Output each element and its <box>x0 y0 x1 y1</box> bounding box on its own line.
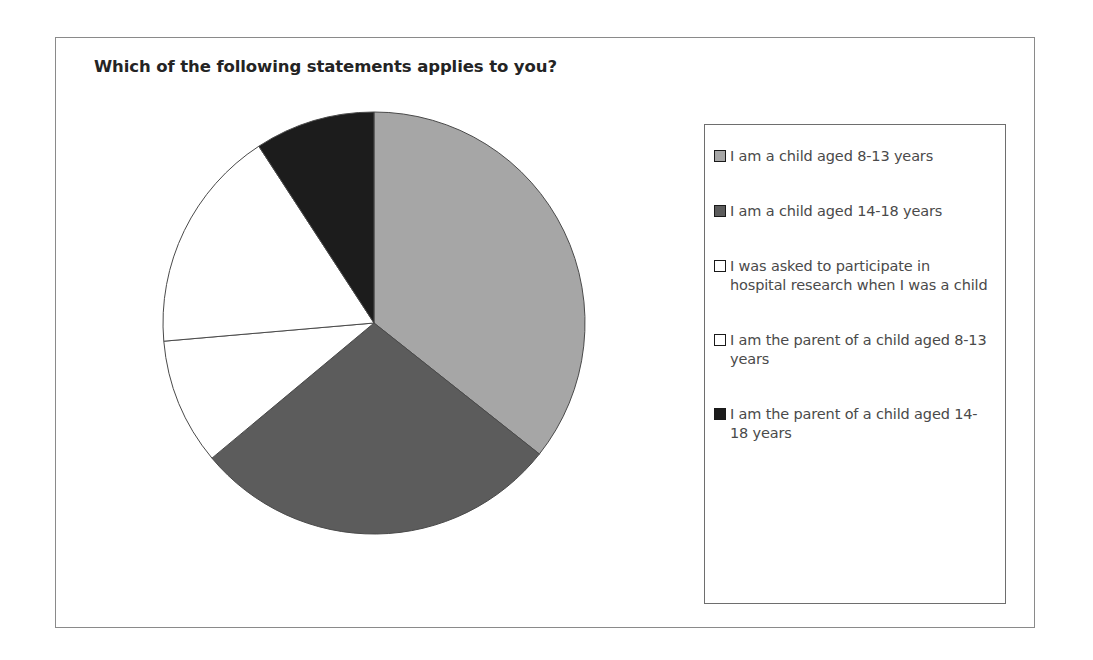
legend-item[interactable]: I am a child aged 14-18 years <box>714 202 999 221</box>
legend-item[interactable]: I am the parent of a child aged 14-18 ye… <box>714 405 999 443</box>
legend-swatch-icon <box>714 334 726 346</box>
pie-svg <box>161 111 591 541</box>
legend-list: I am a child aged 8-13 yearsI am a child… <box>705 125 1005 603</box>
pie-slices <box>163 112 585 534</box>
legend-item[interactable]: I am a child aged 8-13 years <box>714 147 999 166</box>
legend-swatch-icon <box>714 260 726 272</box>
legend-box: I am a child aged 8-13 yearsI am a child… <box>704 124 1006 604</box>
legend-item[interactable]: I am the parent of a child aged 8-13 yea… <box>714 331 999 369</box>
legend-item-label: I am a child aged 14-18 years <box>730 202 942 221</box>
legend-swatch-icon <box>714 150 726 162</box>
pie-chart <box>161 111 591 541</box>
chart-frame: Which of the following statements applie… <box>55 37 1035 628</box>
legend-item-label: I am the parent of a child aged 8-13 yea… <box>730 331 988 369</box>
legend-item[interactable]: I was asked to participate in hospital r… <box>714 257 999 295</box>
legend-item-label: I am a child aged 8-13 years <box>730 147 933 166</box>
legend-item-label: I was asked to participate in hospital r… <box>730 257 988 295</box>
legend-swatch-icon <box>714 408 726 420</box>
chart-title: Which of the following statements applie… <box>94 57 557 76</box>
legend-swatch-icon <box>714 205 726 217</box>
legend-item-label: I am the parent of a child aged 14-18 ye… <box>730 405 988 443</box>
